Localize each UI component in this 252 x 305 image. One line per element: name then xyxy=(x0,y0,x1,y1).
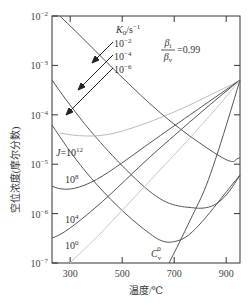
k0-header: K0/s−1 xyxy=(115,23,141,37)
svg-text:10−6: 10−6 xyxy=(31,208,49,220)
svg-text:500: 500 xyxy=(115,268,130,279)
beta-ratio-annotation: βi βv =0.99 xyxy=(161,37,200,64)
svg-text:=0.99: =0.99 xyxy=(177,44,200,55)
curve-k0-1e-6 xyxy=(52,125,240,242)
k0-value-1e-2: 10−2 xyxy=(114,37,132,49)
y-axis-title: 空位浓度(摩尔分数) xyxy=(9,127,22,214)
j-label-1e12: J=1012 xyxy=(56,146,84,158)
curve-j-1e12 xyxy=(60,80,240,136)
svg-text:900: 900 xyxy=(219,268,234,279)
x-axis-title: 温度/℃ xyxy=(129,284,163,296)
svg-text:10−7: 10−7 xyxy=(31,257,49,269)
curve-j-1e0 xyxy=(70,80,240,263)
svg-text:10−2: 10−2 xyxy=(31,10,49,22)
svg-text:700: 700 xyxy=(167,268,182,279)
k0-value-1e-6: 10−6 xyxy=(114,63,132,75)
svg-text:10−4: 10−4 xyxy=(31,109,49,121)
curve-k0-1e-2 xyxy=(60,16,240,162)
x-tick-labels: 300 500 700 900 xyxy=(63,268,234,279)
plot-frame xyxy=(52,16,240,263)
chart: 10−2 10−3 10−4 10−5 10−6 10−7 300 500 70… xyxy=(0,0,252,305)
curves xyxy=(52,16,240,263)
y-tick-labels: 10−2 10−3 10−4 10−5 10−6 10−7 xyxy=(31,10,49,269)
curve-j-1e8 xyxy=(52,80,240,189)
y-axis xyxy=(52,16,240,263)
svg-text:10−3: 10−3 xyxy=(31,59,49,71)
k0-arrows xyxy=(66,42,113,115)
j-label-1e0: 100 xyxy=(65,239,79,251)
j-label-1e8: 108 xyxy=(65,173,79,185)
svg-text:βv: βv xyxy=(163,51,173,64)
svg-text:300: 300 xyxy=(63,268,78,279)
curve-cv0 xyxy=(169,80,240,263)
svg-text:βi: βi xyxy=(164,37,172,50)
curve-j-1e4 xyxy=(52,80,240,238)
x-axis xyxy=(70,16,226,263)
k0-value-1e-4: 10−4 xyxy=(114,50,132,62)
svg-text:10−5: 10−5 xyxy=(31,158,49,170)
cv0-label: Cv0 xyxy=(151,245,162,262)
